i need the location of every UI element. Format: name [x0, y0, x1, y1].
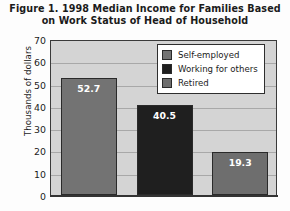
legend-label: Retired [178, 78, 209, 88]
figure-title-line-1: Figure 1. 1998 Median Income for Familie… [8, 3, 282, 15]
legend-swatch-icon [162, 50, 172, 60]
y-tick-label: 0 [18, 191, 46, 202]
bar[interactable]: 40.5 [137, 105, 193, 195]
legend-item[interactable]: Self-employed [162, 48, 260, 62]
legend-label: Working for others [178, 64, 258, 74]
y-tick-label: 70 [18, 35, 46, 46]
y-tick-label: 10 [18, 168, 46, 179]
y-tick-label: 30 [18, 124, 46, 135]
legend-item[interactable]: Retired [162, 76, 260, 90]
y-tick-label: 60 [18, 57, 46, 68]
figure-container: Figure 1. 1998 Median Income for Familie… [0, 0, 290, 211]
legend-swatch-icon [162, 78, 172, 88]
legend-label: Self-employed [178, 50, 239, 60]
y-tick-label: 40 [18, 101, 46, 112]
x-axis-line [50, 195, 278, 197]
bar[interactable]: 19.3 [212, 152, 268, 195]
bar-value-label: 52.7 [62, 83, 116, 94]
bar-value-label: 40.5 [138, 110, 192, 121]
legend-swatch-icon [162, 64, 172, 74]
bar[interactable]: 52.7 [61, 78, 117, 195]
legend: Self-employedWorking for othersRetired [157, 44, 265, 94]
y-tick-label: 20 [18, 146, 46, 157]
figure-title-line-2: on Work Status of Head of Household [8, 15, 282, 27]
y-tick-label: 50 [18, 79, 46, 90]
legend-item[interactable]: Working for others [162, 62, 260, 76]
bar-value-label: 19.3 [213, 157, 267, 168]
figure-title: Figure 1. 1998 Median Income for Familie… [8, 3, 282, 27]
y-axis-tick-labels: 010203040506070 [18, 0, 46, 211]
